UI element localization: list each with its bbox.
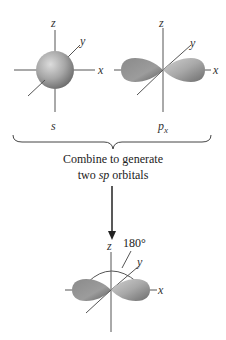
s-y-label: y: [79, 34, 86, 48]
p-orbital-name: px: [157, 119, 168, 135]
sp-angle-pointer: [122, 251, 131, 268]
sp-y-label: y: [136, 255, 143, 269]
sp-orbital-figure: z 180° y x: [65, 236, 164, 332]
s-y-axis-back: [68, 45, 80, 57]
sp-hybridization-diagram: z y x s z y x px Combine to generate two…: [0, 0, 226, 340]
p-x-label: x: [212, 63, 219, 77]
s-orbital-name: s: [51, 119, 56, 133]
sp-x-label: x: [157, 283, 164, 297]
p-orbital-left-lobe: [121, 58, 163, 82]
sp-angle-label: 180°: [123, 236, 146, 250]
p-z-label: z: [158, 16, 164, 30]
sp-orbital-right-lobe: [111, 279, 150, 301]
caption-line-1: Combine to generate: [63, 152, 163, 166]
down-arrow-icon: [108, 186, 116, 240]
p-y-label: y: [189, 36, 196, 50]
combine-brace: [13, 135, 211, 149]
s-x-label: x: [97, 63, 104, 77]
p-orbital-figure: z y x px: [114, 16, 219, 135]
s-z-label: z: [50, 16, 56, 30]
p-orbital-right-lobe: [163, 58, 205, 82]
sp-z-label: z: [106, 239, 112, 253]
sp-orbital-left-lobe: [72, 279, 111, 301]
caption-line-2: two sp orbitals: [78, 168, 149, 182]
s-y-axis-front: [28, 80, 45, 96]
s-orbital-figure: z y x s: [14, 16, 104, 133]
